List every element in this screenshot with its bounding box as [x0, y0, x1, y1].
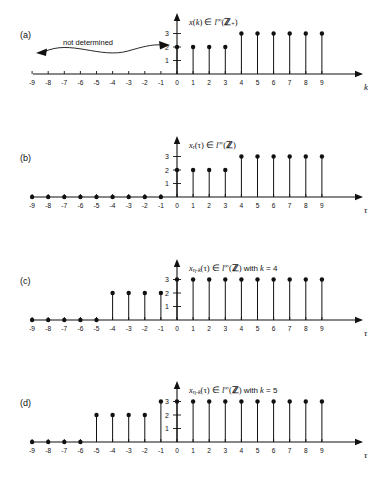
x-tick-label: 8 [304, 325, 308, 332]
x-tick-label: -1 [158, 325, 164, 332]
x-tick-label: 6 [272, 202, 276, 209]
data-point [239, 154, 243, 158]
x-tick-label: 7 [288, 447, 292, 454]
data-point [94, 413, 98, 417]
x-tick-label: -3 [126, 202, 132, 209]
x-tick-label: -4 [110, 447, 116, 454]
x-tick-label: 6 [272, 447, 276, 454]
data-point [207, 277, 211, 281]
data-point [191, 399, 195, 403]
panel-a: -9-8-7-6-5-4-3-2-10123456789123(a)x(k) ∈… [0, 0, 391, 120]
wavy-arrow-head-left [36, 49, 47, 57]
x-tick-label: -5 [94, 447, 100, 454]
data-point [159, 195, 163, 199]
x-tick-label: -2 [142, 325, 148, 332]
data-point [78, 440, 82, 444]
x-tick-label: 7 [288, 325, 292, 332]
x-tick-label: 8 [304, 202, 308, 209]
data-point [175, 399, 179, 403]
x-tick-label: 4 [240, 325, 244, 332]
data-point [143, 413, 147, 417]
data-point [175, 277, 179, 281]
x-tick-label: 3 [223, 79, 227, 86]
x-tick-label: 1 [191, 447, 195, 454]
x-tick-label: -6 [77, 325, 83, 332]
data-point [175, 168, 179, 172]
data-point [191, 277, 195, 281]
x-tick-label: 5 [256, 447, 260, 454]
data-point [110, 291, 114, 295]
figure-stem-plots: -9-8-7-6-5-4-3-2-10123456789123(a)x(k) ∈… [0, 0, 391, 488]
data-point [304, 399, 308, 403]
axis-title-a: x(k) ∈ l∞(ℤ+) [189, 16, 238, 27]
data-point [223, 399, 227, 403]
x-tick-label: 9 [320, 202, 324, 209]
data-point [320, 399, 324, 403]
y-tick-label: 2 [165, 412, 169, 419]
data-point [46, 195, 50, 199]
data-point [255, 154, 259, 158]
x-tick-label: -4 [110, 79, 116, 86]
x-tick-label: -6 [77, 447, 83, 454]
data-point [320, 154, 324, 158]
y-tick-label: 1 [165, 57, 169, 64]
x-tick-label: 7 [288, 79, 292, 86]
x-tick-label: 5 [256, 325, 260, 332]
data-point [288, 31, 292, 35]
data-point [78, 195, 82, 199]
data-point [239, 31, 243, 35]
panel-label-c: (c) [20, 276, 31, 286]
data-point [223, 277, 227, 281]
x-tick-label: 0 [175, 79, 179, 86]
data-point [159, 291, 163, 295]
x-tick-label: 0 [175, 202, 179, 209]
x-tick-label: -2 [142, 79, 148, 86]
y-tick-label: 2 [165, 290, 169, 297]
x-tick-label: -1 [158, 202, 164, 209]
data-point [62, 440, 66, 444]
data-point [46, 440, 50, 444]
x-tick-label: 9 [320, 325, 324, 332]
data-point [110, 195, 114, 199]
y-tick-label: 1 [165, 180, 169, 187]
data-point [320, 31, 324, 35]
x-tick-label: 2 [207, 447, 211, 454]
x-tick-label: -3 [126, 325, 132, 332]
panel-label-d: (d) [20, 398, 31, 408]
x-tick-label: -4 [110, 325, 116, 332]
x-tick-label: -4 [110, 202, 116, 209]
x-tick-label: 0 [175, 447, 179, 454]
x-tick-label: 2 [207, 79, 211, 86]
x-tick-label: 3 [223, 325, 227, 332]
x-tick-label: -9 [29, 325, 35, 332]
data-point [304, 154, 308, 158]
data-point [62, 318, 66, 322]
panel-d: -9-8-7-6-5-4-3-2-10123456789123(d)xη-k(τ… [0, 368, 391, 488]
x-tick-label: 5 [256, 79, 260, 86]
x-tick-label: -2 [142, 202, 148, 209]
data-point [304, 31, 308, 35]
y-tick-label: 2 [165, 167, 169, 174]
data-point [175, 45, 179, 49]
x-tick-label: 3 [223, 202, 227, 209]
x-axis-arrowhead [355, 71, 363, 77]
data-point [127, 413, 131, 417]
data-point [239, 399, 243, 403]
y-tick-label: 3 [165, 153, 169, 160]
x-tick-label: 2 [207, 325, 211, 332]
annotation-not-determined: not determined [63, 38, 113, 47]
data-point [304, 277, 308, 281]
x-tick-label: 1 [191, 79, 195, 86]
x-tick-label: 5 [256, 202, 260, 209]
data-point [288, 277, 292, 281]
data-point [127, 195, 131, 199]
axis-title-c: xη-k(τ) ∈ l∞(ℤ) with k = 4 [189, 262, 277, 273]
data-point [62, 195, 66, 199]
x-tick-label: -7 [61, 79, 67, 86]
x-tick-label: 2 [207, 202, 211, 209]
data-point [191, 168, 195, 172]
x-tick-label: 8 [304, 79, 308, 86]
x-tick-label: -6 [77, 202, 83, 209]
y-tick-label: 1 [165, 425, 169, 432]
x-tick-label: -5 [94, 325, 100, 332]
